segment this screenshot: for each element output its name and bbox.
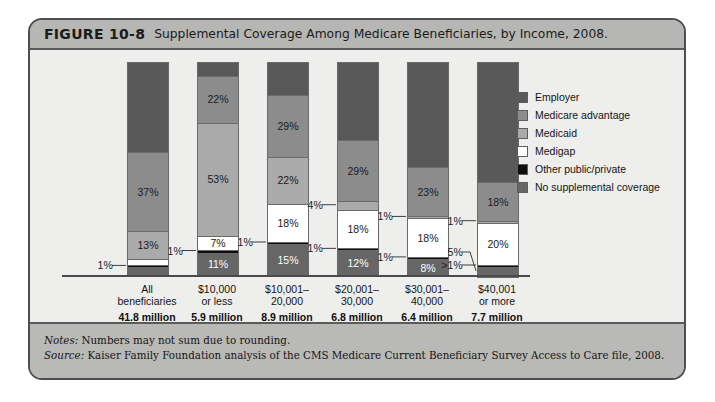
- legend-label-other-public-private: Other public/private: [535, 163, 626, 175]
- callout-label: 1%: [168, 245, 183, 257]
- bar-segment-medicaid[interactable]: [338, 201, 378, 210]
- legend-label-no-supplemental-coverage: No supplemental coverage: [535, 181, 660, 193]
- legend-swatch-no-supplemental-coverage: [517, 182, 528, 193]
- bar-stack-1[interactable]: 37%13%: [127, 62, 169, 277]
- bar-segment-medicaid[interactable]: 13%: [128, 231, 168, 259]
- figure-number: FIGURE 10-8: [44, 26, 145, 42]
- bar-segment-medicare-advantage[interactable]: 22%: [198, 76, 238, 123]
- bar-stack-4[interactable]: 29%18%12%: [337, 62, 379, 277]
- legend-item-employer: Employer: [517, 88, 682, 106]
- bar-segment-medigap[interactable]: 18%: [408, 218, 448, 256]
- bar-stack-5[interactable]: 23%18%8%: [407, 62, 449, 277]
- chart-legend: Employer Medicare advantage Medicaid Med…: [517, 88, 682, 196]
- legend-item-medicaid: Medicaid: [517, 124, 682, 142]
- legend-swatch-medicaid: [517, 128, 528, 139]
- bar-segment-medigap[interactable]: 7%: [198, 236, 238, 251]
- bar-segment-value: 29%: [347, 166, 368, 177]
- bar-segment-value: 7%: [210, 238, 225, 249]
- bar-segment-value: 18%: [487, 197, 508, 208]
- callout-label: 5%: [448, 246, 463, 258]
- legend-swatch-medigap: [517, 146, 528, 157]
- notes-text: Numbers may not sum due to rounding.: [78, 334, 290, 346]
- bar-segment-no-supplemental-coverage[interactable]: 12%: [338, 250, 378, 276]
- figure-title: Supplemental Coverage Among Medicare Ben…: [154, 27, 608, 41]
- bar-segment-value: 13%: [137, 240, 158, 251]
- bar-segment-employer[interactable]: [268, 63, 308, 95]
- bar-segment-value: 8%: [420, 263, 435, 274]
- source-line: Source: Kaiser Family Foundation analysi…: [44, 348, 684, 363]
- bar-segment-medigap[interactable]: 18%: [338, 210, 378, 248]
- legend-label-medigap: Medigap: [535, 145, 575, 157]
- bar-segment-value: 11%: [208, 259, 228, 270]
- legend-swatch-employer: [517, 92, 528, 103]
- bar-stack-3[interactable]: 29%22%18%15%: [267, 62, 309, 277]
- bar-segment-medicaid[interactable]: 53%: [198, 123, 238, 236]
- bar-segment-medigap[interactable]: 20%: [478, 223, 518, 266]
- bar-segment-value: 23%: [417, 187, 438, 198]
- axis-baseline: [62, 275, 530, 277]
- bar-segment-medicare-advantage[interactable]: 37%: [128, 152, 168, 231]
- bar-stack-2[interactable]: 22%53%7%11%: [197, 62, 239, 277]
- bar-segment-value: 37%: [137, 187, 158, 198]
- bar-segment-employer[interactable]: [198, 63, 238, 76]
- legend-item-other-public-private: Other public/private: [517, 160, 682, 178]
- source-label: Source:: [44, 349, 84, 361]
- bar-segment-value: 22%: [207, 94, 228, 105]
- bar-segment-value: 15%: [277, 255, 298, 266]
- notes-label: Notes:: [44, 334, 78, 346]
- callout-label: 1%: [378, 251, 393, 263]
- legend-swatch-medicare-advantage: [517, 110, 528, 121]
- bar-segment-value: 18%: [277, 218, 298, 229]
- bar-segment-value: 18%: [347, 224, 368, 235]
- legend-label-medicaid: Medicaid: [535, 127, 577, 139]
- bar-segment-value: 18%: [417, 233, 438, 244]
- legend-item-medicare-advantage: Medicare advantage: [517, 106, 682, 124]
- figure-notes: Notes: Numbers may not sum due to roundi…: [30, 322, 684, 380]
- callout-label: 1%: [448, 215, 463, 227]
- category-label-line: $40,001: [448, 283, 546, 295]
- bar-segment-medicare-advantage[interactable]: 29%: [338, 140, 378, 202]
- notes-line: Notes: Numbers may not sum due to roundi…: [44, 333, 684, 348]
- chart-plot-area: 37%13%Allbeneficiaries41.8 million22%53%…: [30, 50, 684, 322]
- legend-label-employer: Employer: [535, 91, 579, 103]
- bar-segment-value: 22%: [277, 175, 298, 186]
- bar-segment-employer[interactable]: [128, 63, 168, 152]
- bar-segment-medigap[interactable]: 18%: [268, 204, 308, 242]
- bar-segment-value: 29%: [277, 121, 298, 132]
- callout-label: 1%: [308, 242, 323, 254]
- bar-segment-medicare-advantage[interactable]: 29%: [268, 95, 308, 157]
- figure-frame: FIGURE 10-8 Supplemental Coverage Among …: [28, 18, 686, 380]
- bar-segment-medicaid[interactable]: 22%: [268, 157, 308, 204]
- figure-header: FIGURE 10-8 Supplemental Coverage Among …: [30, 20, 684, 50]
- bar-segment-employer[interactable]: [338, 63, 378, 140]
- callout-label: 1%: [378, 210, 393, 222]
- bar-segment-employer[interactable]: [478, 63, 518, 182]
- category-label-6: $40,001or more: [448, 283, 546, 307]
- bar-segment-employer[interactable]: [408, 63, 448, 167]
- category-label-line: or more: [448, 295, 546, 307]
- bar-segment-no-supplemental-coverage[interactable]: 15%: [268, 244, 308, 276]
- bar-segment-medicare-advantage[interactable]: 18%: [478, 182, 518, 220]
- legend-item-no-supplemental-coverage: No supplemental coverage: [517, 178, 682, 196]
- source-text: Kaiser Family Foundation analysis of the…: [84, 349, 664, 361]
- legend-swatch-other-public-private: [517, 164, 528, 175]
- legend-label-medicare-advantage: Medicare advantage: [535, 109, 630, 121]
- callout-label: 4%: [308, 199, 323, 211]
- legend-item-medigap: Medigap: [517, 142, 682, 160]
- bar-segment-value: 53%: [207, 174, 228, 185]
- bar-segment-value: 20%: [487, 239, 508, 250]
- bar-segment-no-supplemental-coverage[interactable]: 11%: [198, 253, 238, 276]
- callout-label: >1%: [441, 259, 462, 271]
- bar-segment-value: 12%: [347, 258, 368, 269]
- callout-label: 1%: [98, 259, 113, 271]
- callout-label: 1%: [238, 236, 253, 248]
- bar-segment-medicare-advantage[interactable]: 23%: [408, 167, 448, 216]
- bar-stack-6[interactable]: 18%20%: [477, 62, 519, 278]
